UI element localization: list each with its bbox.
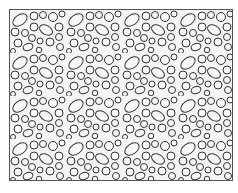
pebble-pattern-panel: [9, 9, 233, 181]
pebble-pattern: [10, 10, 233, 181]
